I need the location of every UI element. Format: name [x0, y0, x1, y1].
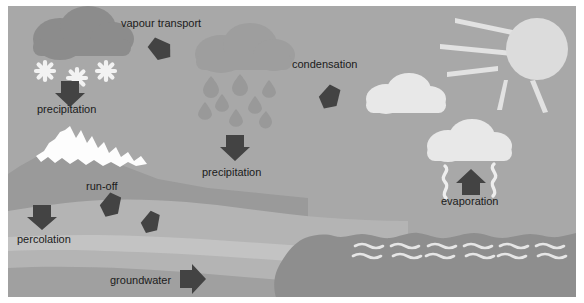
- run-off-label: run-off: [86, 180, 119, 192]
- groundwater-label: groundwater: [110, 274, 171, 286]
- snowflake-icon: [97, 62, 115, 80]
- sun-icon: [506, 18, 568, 80]
- precipitation-left-label: precipitation: [37, 103, 96, 115]
- sea-shape: [274, 233, 576, 297]
- vapour-transport-label: vapour transport: [121, 17, 201, 29]
- percolation-label: percolation: [17, 233, 71, 245]
- water-cycle-diagram: precipitation: [8, 6, 576, 297]
- snowflake-icon: [36, 62, 54, 80]
- evaporation-label: evaporation: [441, 195, 499, 207]
- condensation-label: condensation: [292, 58, 357, 70]
- precipitation-mid-label: precipitation: [202, 166, 261, 178]
- screenshot-root: precipitation: [0, 0, 584, 303]
